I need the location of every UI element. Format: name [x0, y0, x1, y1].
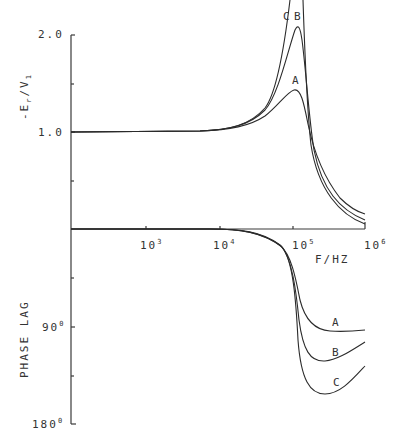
xtick-label-1e4: 104 — [213, 238, 236, 252]
xtick-label-1e6: 106 — [364, 238, 387, 252]
ytick-label-1.0: 1.0 — [38, 126, 64, 139]
series-label-A-bottom: A — [332, 316, 341, 329]
frequency-response-chart: 2.0 1.0 -Er/V1 PHASE LAG 900 1800 103 10… — [0, 0, 403, 440]
svg-text:-Er/V1: -Er/V1 — [18, 73, 33, 120]
phase-lag-label: PHASE LAG — [18, 300, 31, 378]
top-y-label: -Er/V1 — [18, 73, 33, 120]
series-label-B-bottom: B — [332, 346, 341, 359]
ytick-label-180: 1800 — [32, 417, 64, 431]
ytick-label-2.0: 2.0 — [38, 28, 64, 41]
series-label-C-bottom: C — [333, 376, 342, 389]
series-label-C-top: C — [283, 10, 292, 23]
ytick-label-90: 900 — [42, 320, 65, 334]
series-label-B-top: B — [294, 10, 303, 23]
series-label-A-top: A — [292, 74, 301, 87]
svg-text:PHASE LAG: PHASE LAG — [18, 300, 31, 378]
xtick-label-1e5: 105 — [292, 238, 315, 252]
amplitude-curve-B — [71, 27, 365, 220]
amplitude-curve-C — [71, 0, 365, 224]
x-axis-label: F/HZ — [315, 253, 350, 266]
amplitude-curve-A — [71, 90, 365, 214]
xtick-label-1e3: 103 — [140, 238, 163, 252]
